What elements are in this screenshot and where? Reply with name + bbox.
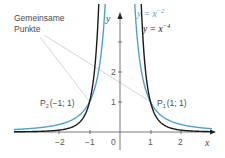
x-tick-label: 1 [148, 137, 153, 147]
power-function-chart: −2 −1 0 1 2 1 2 x y y = x−2 y = x−4 Geme… [0, 0, 225, 158]
leader-line-p2 [40, 37, 90, 102]
x-axis-label: x [204, 137, 210, 148]
point-label-p1: P1(1; 1) [157, 98, 187, 109]
common-points-label-line2: Punkte [14, 24, 41, 34]
y-axis-arrow-icon [118, 12, 123, 19]
x-tick-label: −1 [85, 137, 95, 147]
x-tick-label: 2 [178, 137, 183, 147]
point-label-p2: P2(−1; 1) [40, 98, 75, 109]
legend-x-minus-2: y = x−2 [136, 7, 165, 19]
y-tick-label: 2 [111, 67, 116, 77]
x-tick-label: 0 [111, 137, 116, 147]
y-axis-label: y [105, 13, 111, 24]
x-tick-label: −2 [55, 137, 65, 147]
common-points-label-line1: Gemeinsame [14, 13, 65, 23]
leader-lines [40, 35, 151, 102]
legend-x-minus-4: y = x−4 [142, 22, 171, 34]
y-tick-label: 1 [111, 97, 116, 107]
leader-line-p1 [44, 35, 151, 102]
curve-x-minus-2-right [135, 4, 212, 129]
